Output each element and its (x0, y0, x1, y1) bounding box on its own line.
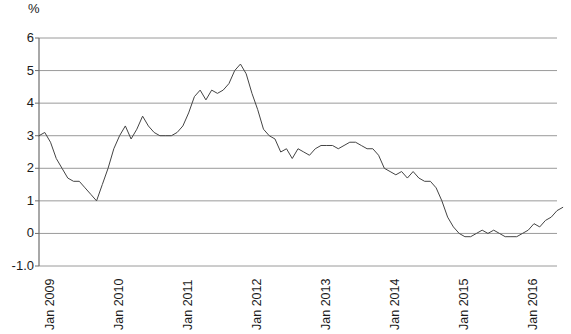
y-axis-tick-label: -1.0 (0, 259, 34, 272)
x-axis-tick-label: Jan 2015 (458, 279, 471, 330)
x-axis-tick-label: Jan 2013 (320, 279, 333, 330)
y-axis-tick-label: 2 (0, 161, 34, 174)
y-axis-tick-label: 0 (0, 226, 34, 239)
y-axis-tick-label: 6 (0, 31, 34, 44)
x-axis-tick-label: Jan 2012 (251, 279, 264, 330)
x-axis-tick-label: Jan 2011 (182, 279, 195, 330)
x-axis-tick-label: Jan 2016 (527, 279, 540, 330)
axis-lines (35, 38, 39, 266)
y-axis-tick-label: 5 (0, 64, 34, 77)
x-axis-tick-label: Jan 2010 (113, 279, 126, 330)
x-axis-tick-label: Jan 2009 (44, 279, 57, 330)
x-axis-tick-label: Jan 2014 (389, 279, 402, 330)
inflation-line-chart: % 6543210-1.0 Jan 2009Jan 2010Jan 2011Ja… (0, 0, 571, 334)
plot-area (0, 0, 571, 334)
y-axis-tick-label: 3 (0, 129, 34, 142)
y-axis-tick-label: 1 (0, 194, 34, 207)
series-line-inflation-rate (39, 64, 563, 237)
y-axis-tick-label: 4 (0, 96, 34, 109)
